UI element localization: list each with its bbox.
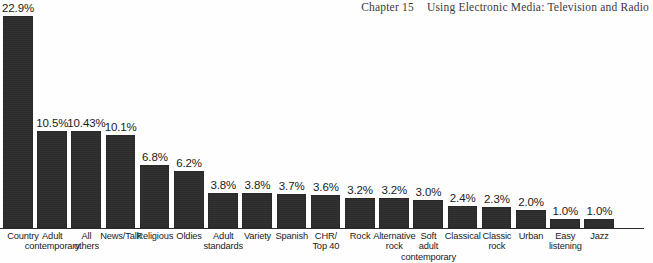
bar-slot: 3.7%	[275, 0, 309, 229]
bar-slot: 3.8%	[240, 0, 274, 229]
category-label-line: rock	[468, 241, 526, 251]
bar-slot: 10.43%	[69, 0, 103, 229]
bar-slot: 22.9%	[1, 0, 35, 229]
category-label: Jazz	[571, 231, 629, 241]
category-label-line: standards	[194, 241, 252, 251]
bar[interactable]	[482, 207, 512, 228]
bar-slot: 2.0%	[514, 0, 548, 229]
bar[interactable]	[311, 195, 341, 228]
bar[interactable]	[379, 198, 409, 228]
bar-slot: 10.1%	[104, 0, 138, 229]
bar-slot: 6.8%	[138, 0, 172, 229]
bar[interactable]	[550, 219, 580, 228]
bar[interactable]	[106, 135, 136, 229]
bar-slot: 1.0%	[548, 0, 582, 229]
category-label-line: Jazz	[571, 231, 629, 241]
bar-slot: 3.8%	[206, 0, 240, 229]
x-axis-category-labels: CountryAdultcontemporaryAllothersNews/Ta…	[0, 231, 653, 263]
bar-slot: 1.0%	[582, 0, 616, 229]
bar[interactable]	[242, 193, 272, 228]
bar-chart: 22.9%10.5%10.43%10.1%6.8%6.2%3.8%3.8%3.7…	[0, 0, 653, 263]
chart-plot-area: 22.9%10.5%10.43%10.1%6.8%6.2%3.8%3.8%3.7…	[0, 0, 653, 229]
category-label-line: contemporary	[400, 252, 458, 262]
category-label-line: others	[58, 241, 116, 251]
category-label-line: listening	[536, 241, 594, 251]
bar-slot: 10.5%	[35, 0, 69, 229]
category-label-line: adult	[400, 241, 458, 251]
bar-slot: 6.2%	[172, 0, 206, 229]
bar[interactable]	[37, 131, 67, 228]
bar-value-label: 1.0%	[574, 205, 624, 217]
bar[interactable]	[345, 198, 375, 228]
bar[interactable]	[277, 194, 307, 228]
category-label-line: Top 40	[297, 241, 355, 251]
bar[interactable]	[448, 206, 478, 228]
bar[interactable]	[140, 165, 170, 228]
page-canvas: Chapter 15 Using Electronic Media: Telev…	[0, 0, 653, 263]
x-axis-line	[0, 228, 644, 229]
bar[interactable]	[413, 200, 443, 228]
bar[interactable]	[208, 193, 238, 228]
bar[interactable]	[584, 219, 614, 228]
bar[interactable]	[71, 131, 101, 228]
